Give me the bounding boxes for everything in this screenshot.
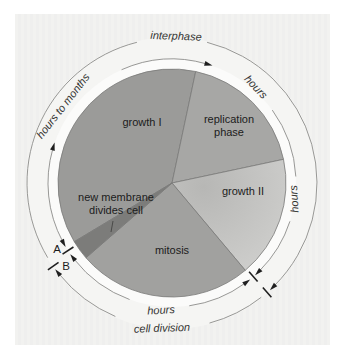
label-replication-phase-line-1: phase	[204, 125, 254, 138]
label-hours-mitosis: hours	[147, 303, 175, 317]
label-new-membrane-line-0: new membrane	[78, 191, 154, 204]
labels-layer: interphasehours to monthshourshourshours…	[0, 0, 343, 362]
label-growth-II: growth II	[222, 185, 264, 198]
label-A: A	[53, 243, 61, 256]
label-mitosis: mitosis	[155, 244, 189, 257]
label-hours-to-months: hours to months	[34, 71, 92, 141]
label-hours-replication: hours	[242, 73, 270, 102]
label-new-membrane-line-1: divides cell	[78, 203, 154, 216]
label-hours-growth2: hours	[287, 185, 301, 213]
label-replication-phase-line-0: replication	[204, 113, 254, 126]
label-interphase: interphase	[150, 29, 202, 43]
label-B: B	[62, 260, 70, 273]
label-growth-I: growth I	[122, 116, 161, 129]
label-cell-division: cell division	[134, 321, 191, 335]
label-new-membrane: new membranedivides cell	[78, 191, 154, 216]
label-replication-phase: replicationphase	[204, 113, 254, 138]
cell-cycle-figure: interphasehours to monthshourshourshours…	[0, 0, 343, 362]
